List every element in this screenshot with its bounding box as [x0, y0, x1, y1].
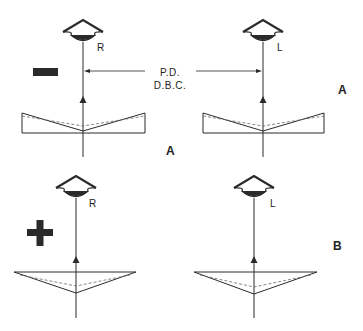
left-eye-label: L: [277, 42, 283, 53]
arrowhead-icon: [256, 69, 262, 73]
eye-icon: [56, 176, 96, 197]
pd-label: P.D.: [160, 67, 180, 78]
minus-sign-icon: [33, 68, 58, 76]
arrowhead-icon: [84, 69, 90, 73]
direction-arrow-icon: [260, 96, 267, 103]
panel-a-bottom-label: A: [166, 144, 175, 158]
right-eye-label: R: [97, 42, 104, 53]
pd-measurement: P.D. D.B.C.: [84, 67, 262, 91]
panel-a-label: A: [338, 83, 347, 97]
diagram-canvas: R A L P.D. D.B.C. A: [0, 0, 363, 331]
panel-b-label: B: [333, 239, 342, 253]
left-eye-label: L: [270, 198, 276, 209]
direction-arrow-icon: [80, 96, 87, 103]
prism-left-b: [194, 272, 317, 294]
right-eye-b: R: [56, 176, 96, 318]
eye-icon: [234, 176, 274, 197]
right-eye-label: R: [89, 198, 96, 209]
plus-sign-icon: [27, 220, 53, 246]
prism-diagram: R A L P.D. D.B.C. A: [0, 0, 363, 331]
panel-b: R L B: [14, 176, 342, 318]
right-eye-a: R: [63, 20, 104, 157]
direction-arrow-icon: [251, 256, 258, 263]
dbc-label: D.B.C.: [154, 80, 186, 91]
eye-icon: [243, 20, 283, 41]
eye-icon: [63, 20, 103, 41]
panel-a: R A L P.D. D.B.C. A: [22, 20, 347, 158]
direction-arrow-icon: [73, 256, 80, 263]
left-eye-a: L: [243, 20, 283, 157]
prism-right-b: [14, 272, 136, 293]
left-eye-b: L: [234, 176, 276, 318]
